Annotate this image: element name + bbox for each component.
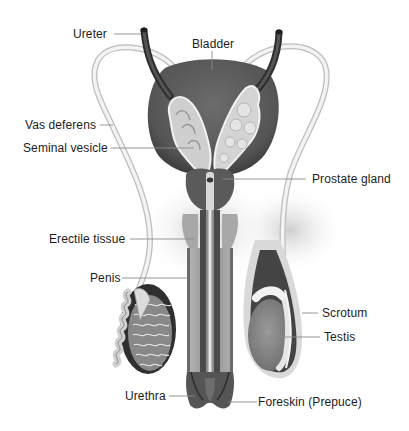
label-testis: Testis [324,330,355,344]
left-testis-section [116,284,176,374]
label-prostate-gland: Prostate gland [312,172,391,186]
label-ureter: Ureter [73,27,107,41]
label-erectile-tissue: Erectile tissue [49,232,125,246]
label-seminal-vesicle: Seminal vesicle [23,141,108,155]
label-penis: Penis [90,271,121,285]
label-scrotum: Scrotum [322,306,367,320]
label-vas-deferens: Vas deferens [25,118,96,132]
label-bladder: Bladder [192,37,234,51]
anatomy-diagram [0,0,409,431]
glans-foreskin [186,372,234,408]
label-urethra: Urethra [125,389,166,403]
body-shadow [138,175,345,285]
label-foreskin: Foreskin (Prepuce) [258,395,362,409]
